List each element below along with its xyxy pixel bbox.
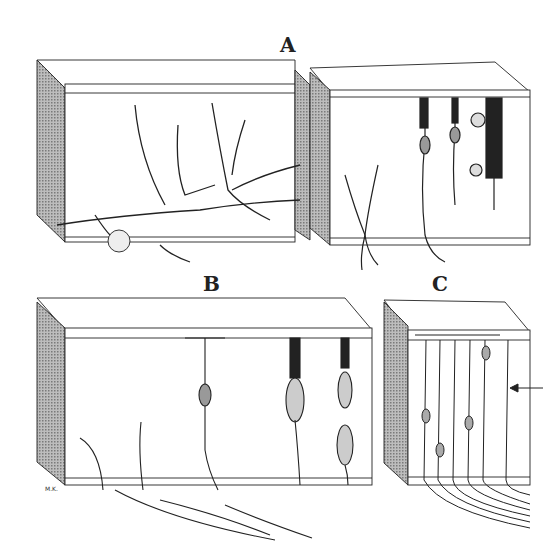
artist-signature: M.K.: [45, 485, 58, 492]
figure-illustration: [0, 0, 559, 558]
round-cell: [108, 230, 130, 252]
panel-a-left-block: [37, 60, 310, 242]
panel-label-b: B: [203, 272, 220, 296]
panel-label-a: A: [280, 33, 296, 57]
panel-label-c: C: [432, 272, 448, 296]
panel-c-block: [384, 300, 530, 485]
